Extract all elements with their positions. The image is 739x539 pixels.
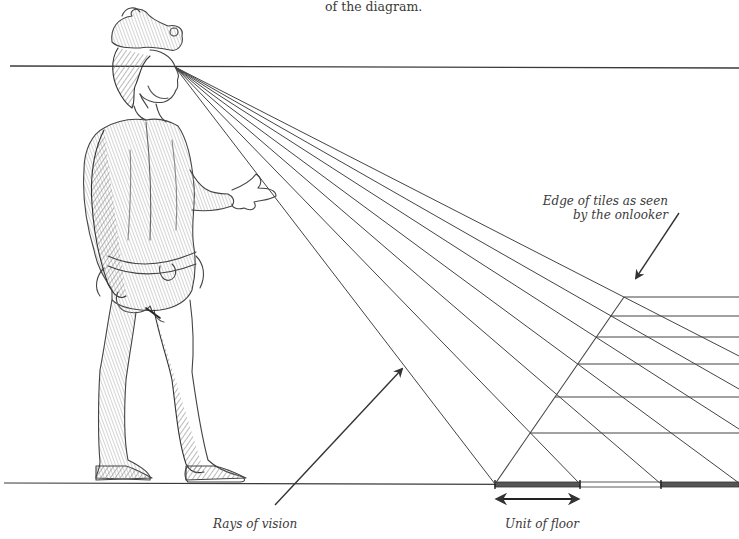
unit-of-floor-label: Unit of floor [505, 517, 579, 531]
diagram-canvas [0, 0, 739, 539]
tile-horizontal-lines [530, 297, 739, 433]
floor-units [495, 480, 739, 489]
near-leg [96, 300, 150, 480]
tile-edge-line [495, 297, 624, 484]
edge-of-tiles-label: Edge of tiles as seen by the onlooker [540, 194, 668, 222]
far-leg [154, 310, 204, 473]
rays-of-vision-label: Rays of vision [213, 517, 297, 531]
caption-top: of the diagram. [325, 0, 422, 14]
edge-of-tiles-arrow [636, 213, 679, 278]
edge-of-tiles-label-line2: by the onlooker [540, 208, 668, 222]
extended-arm [190, 170, 234, 211]
figure-sketch [84, 8, 276, 482]
perspective-diagram: of the diagram. Edge of tiles as seen by… [0, 0, 739, 539]
edge-of-tiles-label-line1: Edge of tiles as seen [540, 194, 668, 208]
far-shoe [186, 466, 246, 480]
rays-of-vision [175, 67, 739, 484]
extended-hand [232, 174, 276, 210]
